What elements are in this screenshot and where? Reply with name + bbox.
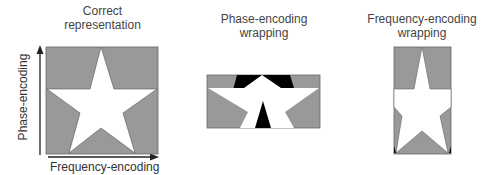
- wrapping-diagram: [0, 0, 489, 175]
- panel-2-phase-wrap-image: [207, 75, 320, 128]
- panel-3-frequency-wrap-image: [394, 47, 451, 154]
- x-axis-arrow-icon: [150, 154, 159, 161]
- y-axis-arrow-icon: [37, 45, 44, 54]
- panel-1-correct-image: [46, 47, 158, 154]
